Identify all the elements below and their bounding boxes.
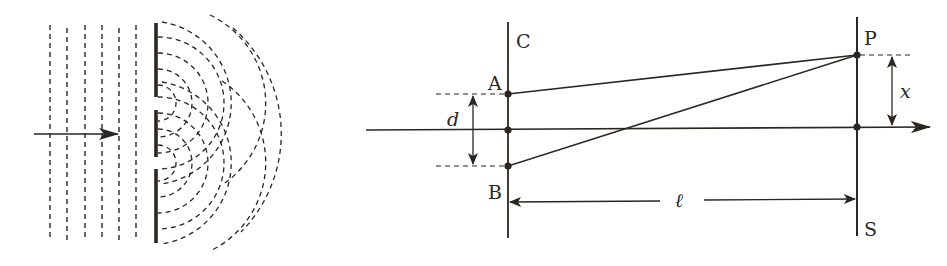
label-b: B: [488, 181, 502, 203]
l-dimension-arrow-left-icon: [510, 201, 660, 202]
label-d: d: [447, 108, 459, 130]
double-slit-diagram: C A B d P x ℓ S: [0, 0, 947, 266]
geometry-panel: C A B d P x ℓ S: [366, 17, 930, 240]
ray-a-to-p: [508, 55, 857, 94]
point-p: [853, 51, 860, 58]
point-origin: [504, 126, 511, 133]
label-c: C: [516, 30, 531, 52]
label-a: A: [487, 72, 502, 94]
l-dimension-arrow-right-icon: [704, 199, 855, 200]
point-b: [504, 162, 511, 169]
label-s: S: [864, 218, 877, 240]
ray-b-to-p: [508, 55, 857, 166]
wave-diffraction-panel: [34, 15, 281, 251]
circular-wavefronts-slit-2: [158, 81, 266, 251]
label-p: P: [864, 27, 877, 49]
label-x: x: [900, 80, 911, 102]
circular-wavefronts-slit-1: [158, 15, 266, 185]
label-l: ℓ: [675, 189, 683, 211]
point-a: [504, 90, 511, 97]
point-screen-center: [853, 123, 860, 130]
